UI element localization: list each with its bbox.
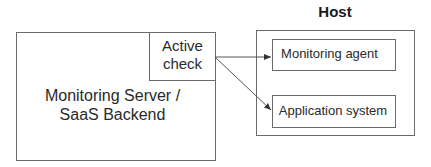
arrow-to-application [215,57,271,110]
arrows [0,0,431,167]
